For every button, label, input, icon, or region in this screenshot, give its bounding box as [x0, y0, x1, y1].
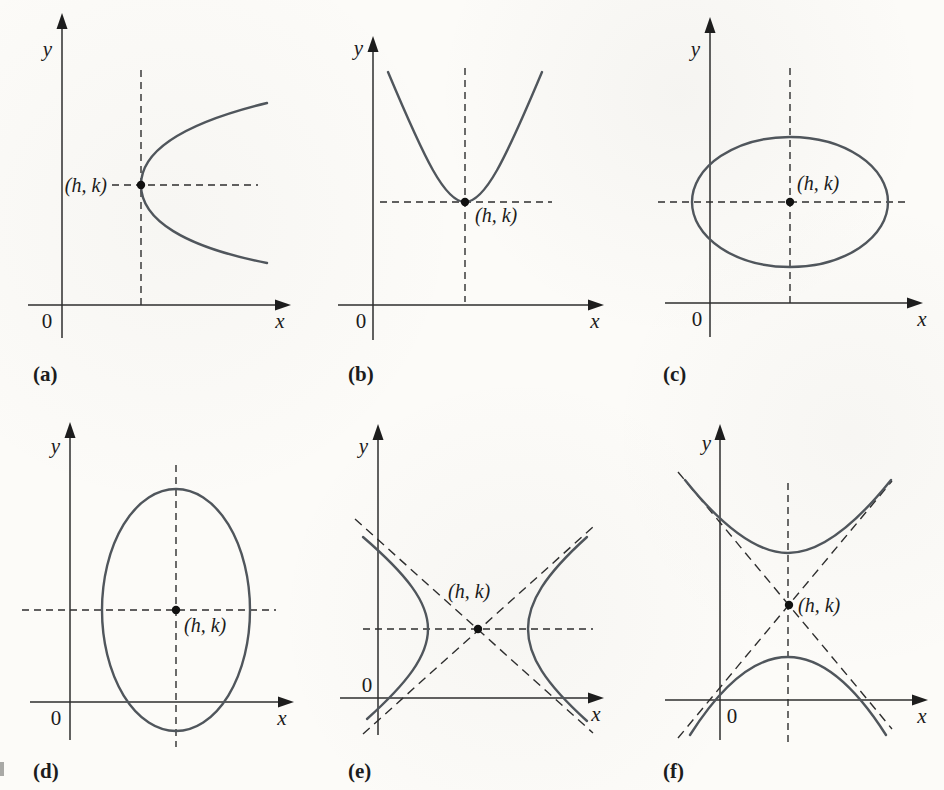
center-point	[172, 606, 180, 614]
y-axis-arrow-icon	[368, 36, 379, 52]
y-axis-label: y	[41, 37, 53, 61]
y-axis-label: y	[49, 434, 61, 458]
asymptote-line	[355, 519, 593, 733]
point-label: (h, k)	[65, 174, 108, 197]
point-label: (h, k)	[475, 204, 518, 227]
center-point	[786, 198, 794, 206]
panel-d-plot: y x 0 (h, k) (d)	[0, 395, 315, 790]
y-axis-arrow-icon	[65, 422, 76, 438]
vertex-point	[137, 181, 145, 189]
center-point	[474, 625, 482, 633]
x-axis-label: x	[589, 309, 600, 333]
x-axis-label: x	[916, 704, 927, 728]
center-point	[785, 601, 793, 609]
panel-a-plot: y x 0 (h, k) (a)	[0, 0, 315, 395]
origin-label: 0	[727, 704, 738, 728]
panel-a: y x 0 (h, k) (a)	[0, 0, 315, 395]
y-axis-label: y	[689, 37, 701, 61]
panel-b-plot: y x 0 (h, k) (b)	[315, 0, 630, 395]
parabola-curve	[141, 103, 267, 263]
panel-letter: (f)	[663, 759, 684, 783]
panel-b: y x 0 (h, k) (b)	[315, 0, 630, 395]
point-label: (h, k)	[448, 580, 491, 603]
panel-e: y x 0 (h, k) (e)	[315, 395, 630, 790]
point-label: (h, k)	[184, 614, 227, 637]
origin-label: 0	[356, 309, 367, 333]
origin-label: 0	[692, 307, 703, 331]
panel-e-plot: y x 0 (h, k) (e)	[315, 395, 630, 790]
panel-letter: (c)	[663, 362, 686, 386]
panel-letter: (e)	[348, 759, 371, 783]
conic-sections-figure: y x 0 (h, k) (a) y x 0 (h, k) (b)	[0, 0, 944, 790]
y-axis-arrow-icon	[715, 424, 726, 440]
panel-d: y x 0 (h, k) (d)	[0, 395, 315, 790]
point-label: (h, k)	[798, 594, 841, 617]
origin-label: 0	[51, 706, 62, 730]
y-axis-label: y	[700, 431, 712, 455]
x-axis-label: x	[590, 702, 601, 726]
panel-c-plot: y x 0 (h, k) (c)	[630, 0, 944, 395]
asymptote-line	[678, 472, 892, 729]
x-axis-label: x	[274, 309, 285, 333]
y-axis-label: y	[357, 434, 369, 458]
panel-f-plot: y x 0 (h, k) (f)	[630, 395, 944, 790]
y-axis-arrow-icon	[373, 424, 384, 440]
x-axis-label: x	[276, 706, 287, 730]
vertex-point	[461, 198, 469, 206]
x-axis-label: x	[916, 307, 927, 331]
panel-f: y x 0 (h, k) (f)	[630, 395, 944, 790]
origin-label: 0	[42, 309, 53, 333]
panel-letter: (a)	[33, 362, 58, 386]
scan-artifact	[0, 762, 4, 776]
panel-letter: (d)	[33, 759, 59, 783]
origin-label: 0	[362, 673, 373, 697]
hyperbola-upper-branch	[685, 480, 891, 553]
hyperbola-left-branch	[363, 537, 428, 719]
panel-c: y x 0 (h, k) (c)	[630, 0, 944, 395]
y-axis-label: y	[352, 36, 364, 60]
point-label: (h, k)	[797, 172, 840, 195]
y-axis-arrow-icon	[57, 13, 68, 29]
panel-letter: (b)	[348, 362, 374, 386]
y-axis-arrow-icon	[705, 17, 716, 33]
